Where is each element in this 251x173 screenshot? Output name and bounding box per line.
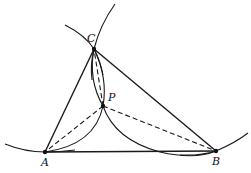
label-b: B [212,156,220,167]
arc-upper-left-through-c [65,25,103,75]
label-p: P [108,92,115,103]
segment-ca [45,49,94,152]
label-c: C [87,33,95,44]
segment-pb [103,106,216,151]
geometry-diagram [0,0,251,173]
point-c [92,47,96,51]
point-b [214,149,218,153]
arc-p-to-b [103,106,216,156]
label-a: A [41,157,49,168]
point-a [43,150,47,154]
segment-pa [45,106,103,152]
segment-ab [45,151,216,152]
point-p [101,104,105,108]
